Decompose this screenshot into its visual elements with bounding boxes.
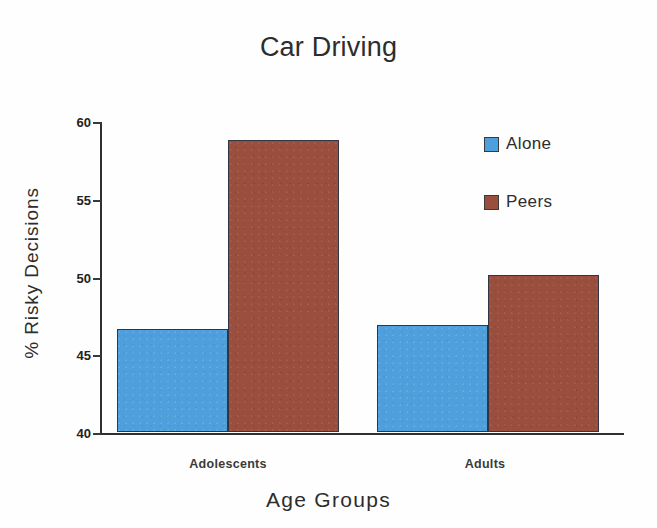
y-tick-label: 40 — [77, 426, 91, 441]
y-tick-label: 50 — [77, 270, 91, 285]
y-tick-mark — [93, 278, 101, 280]
y-tick-mark — [93, 433, 101, 435]
peers-swatch-icon — [484, 195, 499, 210]
legend-label-alone: Alone — [506, 134, 551, 154]
alone-swatch-icon — [484, 137, 499, 152]
y-tick-label: 55 — [77, 192, 91, 207]
bar-adolescents-peers[interactable] — [228, 140, 339, 432]
category-label-adults: Adults — [465, 457, 506, 471]
y-tick-label: 60 — [77, 115, 91, 130]
y-tick-mark — [93, 355, 101, 357]
y-tick-mark — [93, 200, 101, 202]
bar-adults-peers[interactable] — [488, 275, 599, 432]
chart-title: Car Driving — [0, 32, 657, 63]
chart-figure: Car Driving % Risky Decisions 4045505560… — [0, 0, 657, 528]
legend-label-peers: Peers — [506, 192, 552, 212]
bar-adults-alone[interactable] — [377, 325, 488, 432]
category-label-adolescents: Adolescents — [189, 457, 267, 471]
legend-item-peers[interactable]: Peers — [484, 192, 552, 212]
y-tick-label: 45 — [77, 348, 91, 363]
chart-legend: Alone Peers — [484, 134, 552, 250]
y-axis-title: % Risky Decisions — [21, 153, 43, 393]
y-tick-mark — [93, 122, 101, 124]
x-axis-title: Age Groups — [0, 488, 657, 512]
bar-adolescents-alone[interactable] — [117, 329, 228, 432]
legend-item-alone[interactable]: Alone — [484, 134, 552, 154]
x-axis-line — [100, 433, 624, 435]
